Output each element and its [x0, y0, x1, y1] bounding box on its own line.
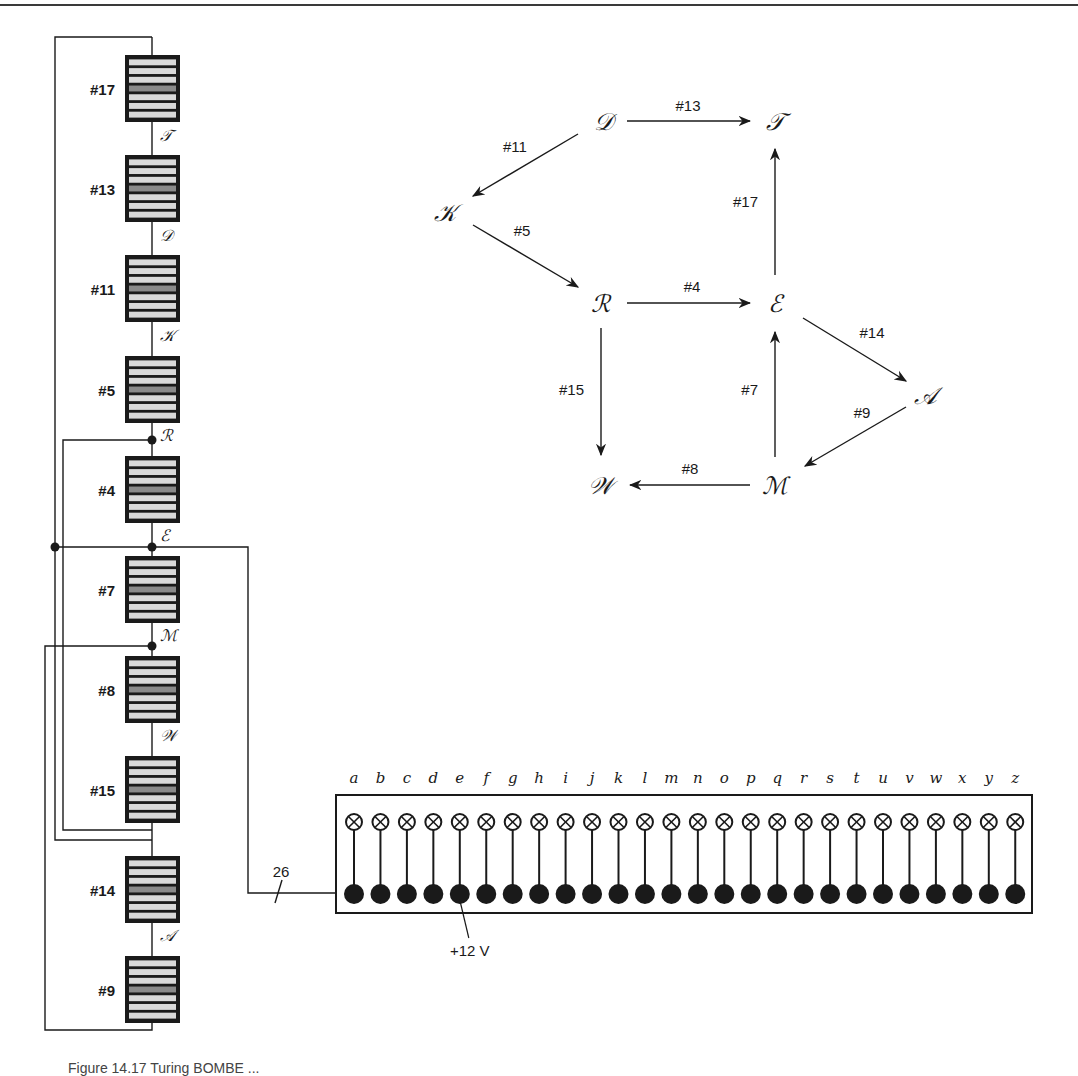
rotor-stripe [129, 360, 176, 366]
rotor-stripe [129, 194, 176, 200]
lamp-letter-label: s [826, 769, 834, 787]
lamp-letter-label: q [772, 769, 782, 787]
rotor-label: #17 [90, 81, 115, 98]
lamp-s: s [820, 769, 840, 904]
junction-label-k: 𝒦 [160, 326, 180, 345]
lamp-y: y [979, 769, 999, 904]
lamp-h: h [529, 769, 549, 904]
lamp-bulb-icon [663, 814, 679, 830]
lamp-i: i [556, 769, 576, 904]
junction-label-a: 𝒜 [160, 926, 180, 945]
rotor-stripe-marked [129, 587, 176, 593]
lamp-bulb-icon [690, 814, 706, 830]
rotor-stripe [129, 59, 176, 65]
graph-node-e: ℰ [768, 290, 785, 318]
junction-dot-e [148, 543, 157, 552]
rotor-stripe [129, 259, 176, 265]
graph-node-m: ℳ [762, 472, 791, 500]
rotor-label: #5 [98, 382, 115, 399]
graph-node-k: 𝒦 [434, 199, 464, 227]
rotor-stripe [129, 978, 176, 984]
junction-label-d: 𝒟 [160, 226, 176, 245]
lamp-v: v [899, 769, 919, 904]
terminal-dot-icon [847, 884, 867, 904]
rotor-label: #14 [90, 882, 116, 899]
rotor-stripe [129, 604, 176, 610]
rotor-stripe [129, 560, 176, 566]
lamp-bulb-icon [452, 814, 468, 830]
bus-width-label: 26 [273, 863, 290, 880]
lamp-g: g [503, 769, 523, 904]
rotor-stripe-marked [129, 987, 176, 993]
rotor-stripe [129, 203, 176, 209]
menu-graph: 𝒟𝒯𝒦ℛℰ𝒜𝒲ℳ#13#11#5#4#17#14#9#7#8#15 [434, 97, 944, 500]
terminal-dot-icon [979, 884, 999, 904]
rotor-stripe [129, 404, 176, 410]
graph-node-a: 𝒜 [914, 382, 944, 410]
terminal-dot-icon [635, 884, 655, 904]
rotor-stripe [129, 1013, 176, 1019]
rotor-stripe [129, 895, 176, 901]
lamp-letter-label: j [587, 769, 595, 787]
rotor-stripe [129, 569, 176, 575]
terminal-dot-icon [873, 884, 893, 904]
lamp-bulb-icon [346, 814, 362, 830]
rotor-stripe [129, 678, 176, 684]
junction-label-t: 𝒯 [160, 126, 177, 145]
graph-edge-d-k: #11 [473, 134, 578, 196]
rotor-stripe [129, 77, 176, 83]
rotor-stripe [129, 660, 176, 666]
terminal-dot-icon [370, 884, 390, 904]
graph-edge-label: #9 [854, 404, 871, 421]
lamp-letter-label: x [958, 769, 967, 787]
rotor-stripe [129, 94, 176, 100]
rotor-stripe [129, 159, 176, 165]
rotor-stripe [129, 177, 176, 183]
rotor-stripe [129, 969, 176, 975]
rotor-stripe [129, 112, 176, 118]
graph-edge-k-r: #5 [473, 222, 578, 287]
lamp-letter-label: v [905, 769, 914, 787]
lamp-bulb-icon [611, 814, 627, 830]
lamp-bulb-icon [531, 814, 547, 830]
terminal-dot-icon [741, 884, 761, 904]
rotor-label: #13 [90, 181, 115, 198]
rotor-stripe [129, 878, 176, 884]
wire-e-bus [55, 547, 336, 893]
rotor-stripe-marked [129, 86, 176, 92]
voltage-label: +12 V [450, 942, 490, 959]
arrow-icon [803, 318, 906, 381]
rotor-stripe [129, 578, 176, 584]
lamp-b: b [370, 769, 390, 904]
rotor-stripe [129, 68, 176, 74]
rotor-stripe [129, 913, 176, 919]
rotor-stripe [129, 277, 176, 283]
lamp-letter-label: u [878, 769, 888, 787]
rotor-stripe [129, 595, 176, 601]
lamp-letter-label: d [429, 769, 439, 787]
rotor-stripe [129, 778, 176, 784]
graph-node-w: 𝒲 [588, 472, 619, 500]
lamp-bulb-icon [716, 814, 732, 830]
lamp-bulb-icon [981, 814, 997, 830]
graph-edge-label: #5 [514, 222, 531, 239]
lamp-letter-label: o [720, 769, 729, 787]
lamp-o: o [714, 769, 734, 904]
lamp-m: m [661, 769, 681, 904]
rotor-stripe [129, 713, 176, 719]
graph-node-t: 𝒯 [766, 108, 792, 136]
terminal-dot-icon [926, 884, 946, 904]
lamp-bulb-icon [928, 814, 944, 830]
lamp-q: q [767, 769, 787, 904]
rotor-label: #11 [91, 281, 115, 298]
rotor-stripe [129, 995, 176, 1001]
lamp-letter-label: a [350, 769, 359, 787]
graph-edge-e-a: #14 [803, 318, 906, 381]
terminal-dot-icon [1005, 884, 1025, 904]
rotor-stripe [129, 904, 176, 910]
rotor-stripe [129, 469, 176, 475]
rotor-stripe [129, 504, 176, 510]
rotor-stripe [129, 695, 176, 701]
